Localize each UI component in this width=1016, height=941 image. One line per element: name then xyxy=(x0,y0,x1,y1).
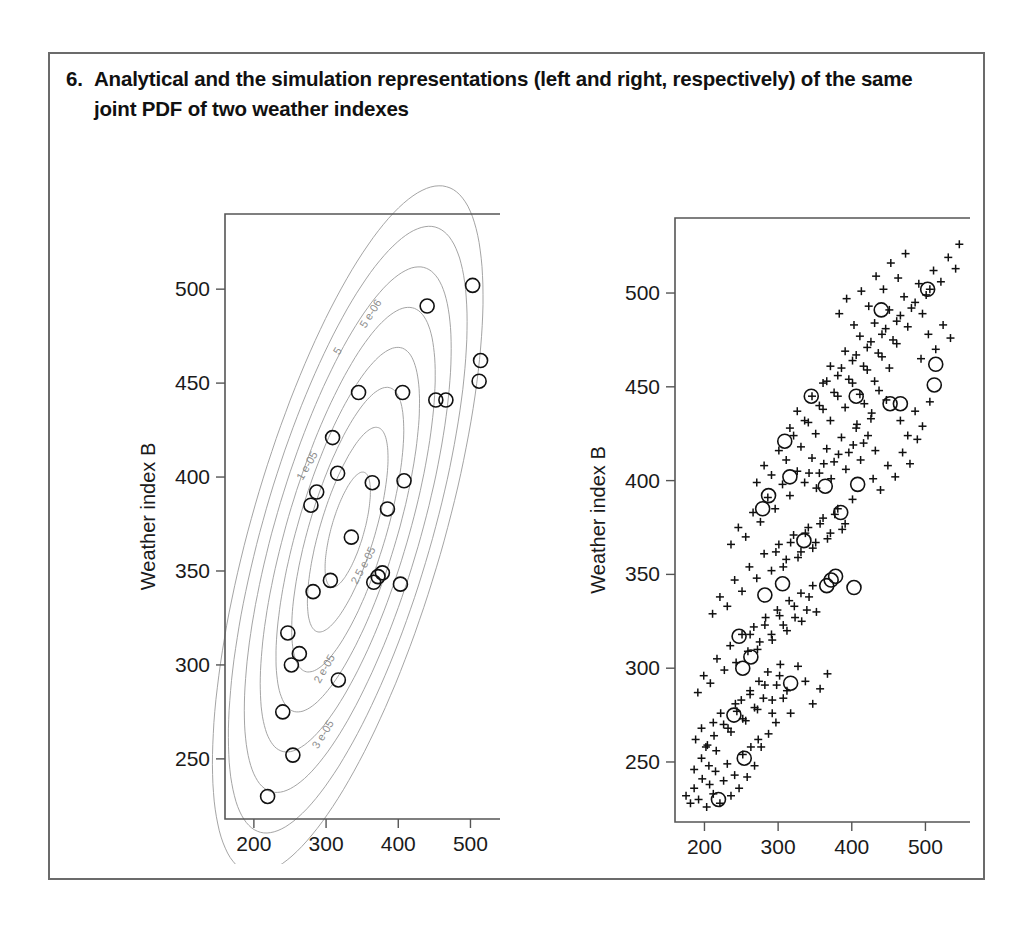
observation-marker xyxy=(849,389,863,403)
y-tick-label: 350 xyxy=(625,562,660,585)
y-axis-title: Weather index B xyxy=(587,446,609,594)
y-tick-label: 450 xyxy=(625,375,660,398)
contour-ring xyxy=(276,347,420,712)
y-tick-label: 400 xyxy=(175,465,210,488)
x-tick-label: 400 xyxy=(381,832,416,855)
caption-number: 6. xyxy=(66,64,83,94)
observation-marker xyxy=(834,505,848,519)
figure-panel: 6. Analytical and the simulation represe… xyxy=(48,52,985,880)
contour-ring xyxy=(260,307,435,752)
x-tick-label: 500 xyxy=(453,832,488,855)
x-tick-label: 200 xyxy=(236,832,271,855)
caption-text: Analytical and the simulation representa… xyxy=(94,64,946,124)
y-tick-label: 250 xyxy=(625,750,660,773)
observation-marker xyxy=(261,789,275,803)
observation-marker xyxy=(732,629,746,643)
observation-marker xyxy=(276,705,290,719)
contour-ring xyxy=(292,387,404,672)
simulation-plot-container: 250300350400450500200300400500Weather in… xyxy=(530,164,970,864)
analytical-plot-svg: 2.5 e-052 e-051 e-053 e-0555 e-06 250300… xyxy=(80,164,500,864)
observation-marker xyxy=(847,581,861,595)
simulated-points-group xyxy=(682,240,963,811)
contour-ring xyxy=(307,427,388,632)
x-tick-label: 400 xyxy=(834,835,869,858)
analytical-plot-container: 2.5 e-052 e-051 e-053 e-0555 e-06 250300… xyxy=(80,164,500,864)
observation-marker xyxy=(326,431,340,445)
observation-marker xyxy=(396,385,410,399)
plot-frame xyxy=(225,214,500,819)
observation-marker xyxy=(304,498,318,512)
observation-marker xyxy=(375,566,389,580)
observation-marker xyxy=(292,647,306,661)
y-tick-label: 300 xyxy=(625,656,660,679)
y-tick-label: 250 xyxy=(175,747,210,770)
observation-marker xyxy=(893,397,907,411)
observation-marker xyxy=(310,485,324,499)
observation-marker xyxy=(344,530,358,544)
axis-group: 250300350400450500200300400500Weather in… xyxy=(137,214,500,864)
y-tick-label: 500 xyxy=(175,277,210,300)
observation-marker xyxy=(323,573,337,587)
observation-marker xyxy=(778,434,792,448)
y-tick-label: 400 xyxy=(625,469,660,492)
y-tick-label: 500 xyxy=(625,281,660,304)
y-tick-label: 450 xyxy=(175,371,210,394)
observation-marker xyxy=(784,676,798,690)
contour-label-group: 2.5 e-052 e-051 e-053 e-0555 e-06 xyxy=(294,297,384,751)
observation-marker xyxy=(797,534,811,548)
x-tick-label: 200 xyxy=(687,835,722,858)
observation-marker xyxy=(927,378,941,392)
observation-marker xyxy=(783,470,797,484)
x-tick-label: 300 xyxy=(309,832,344,855)
observation-marker xyxy=(286,748,300,762)
observation-marker xyxy=(281,626,295,640)
observation-marker xyxy=(466,278,480,292)
observation-marker xyxy=(737,751,751,765)
observation-points-group xyxy=(261,278,488,803)
observation-marker xyxy=(393,577,407,591)
observation-marker xyxy=(420,299,434,313)
observation-marker xyxy=(929,357,943,371)
observation-marker xyxy=(365,476,379,490)
observation-marker xyxy=(776,577,790,591)
y-tick-label: 350 xyxy=(175,559,210,582)
y-tick-label: 300 xyxy=(175,653,210,676)
observation-marker xyxy=(727,708,741,722)
observation-points-group xyxy=(711,282,942,806)
observation-marker xyxy=(439,393,453,407)
observation-marker xyxy=(352,385,366,399)
observation-marker xyxy=(474,354,488,368)
x-tick-label: 300 xyxy=(761,835,796,858)
x-tick-label: 500 xyxy=(908,835,943,858)
observation-marker xyxy=(380,502,394,516)
contour-group xyxy=(212,186,483,864)
simulation-plot-svg: 250300350400450500200300400500Weather in… xyxy=(530,164,970,864)
contour-level-label: 5 xyxy=(330,345,343,357)
contour-ring xyxy=(228,226,467,833)
figure-caption: 6. Analytical and the simulation represe… xyxy=(66,64,946,124)
contour-level-label: 1 e-05 xyxy=(294,449,320,482)
observation-marker xyxy=(758,588,772,602)
contour-level-label: 2 e-05 xyxy=(311,652,337,685)
y-axis-title: Weather index B xyxy=(137,443,159,591)
observation-marker xyxy=(829,569,843,583)
observation-marker xyxy=(756,502,770,516)
observation-marker xyxy=(472,374,486,388)
observation-marker xyxy=(711,792,725,806)
observation-marker xyxy=(851,477,865,491)
contour-level-label: 2.5 e-05 xyxy=(348,545,378,586)
observation-marker xyxy=(818,479,832,493)
